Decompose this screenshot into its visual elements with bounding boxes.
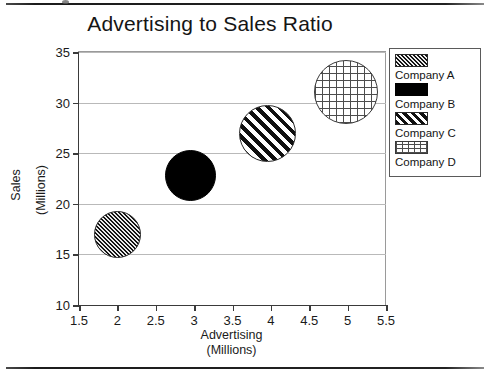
x-axis-tick-label: 1.5 — [70, 313, 88, 328]
legend-swatch-icon — [395, 54, 428, 67]
y-axis-label-line1: Sales — [9, 169, 23, 200]
x-axis-tick-mark — [156, 305, 158, 311]
x-axis-tick-mark — [79, 305, 81, 311]
x-axis-tick-mark — [348, 305, 350, 311]
y-axis-tick-mark — [73, 52, 79, 54]
x-axis-tick-mark — [233, 305, 235, 311]
legend-label: Company A — [395, 68, 476, 82]
bubble-company-b[interactable] — [165, 150, 216, 201]
y-axis-tick-label: 10 — [56, 298, 70, 313]
legend-swatch-icon — [395, 112, 428, 125]
x-axis-tick-label: 5 — [344, 313, 351, 328]
legend-label: Company C — [395, 126, 476, 140]
x-axis-label-line1: Advertising — [78, 328, 385, 343]
scanned-page: Advertising to Sales Ratio 1015202530351… — [0, 0, 488, 380]
bubble-company-a[interactable] — [94, 211, 141, 258]
y-axis-label-line2: (Millions) — [34, 165, 48, 215]
x-axis-tick-label: 3.5 — [223, 313, 241, 328]
x-axis-label-line2: (Millions) — [78, 343, 385, 358]
y-axis-tick-label: 35 — [56, 45, 70, 60]
x-axis-tick-label: 5.5 — [377, 313, 395, 328]
y-axis-label: Sales (Millions) — [8, 150, 58, 240]
x-axis-tick-mark — [117, 305, 119, 311]
x-axis-tick-label: 2.5 — [147, 313, 165, 328]
y-axis-tick-label: 15 — [56, 247, 70, 262]
x-axis-tick-label: 4.5 — [300, 313, 318, 328]
gridline-horizontal — [79, 153, 386, 154]
x-axis-tick-mark — [309, 305, 311, 311]
bubble-company-d[interactable] — [314, 60, 378, 124]
page-top-rule — [6, 3, 484, 5]
plot-area: 1015202530351.522.533.544.555.5 — [78, 52, 386, 306]
chart-legend: Company ACompany BCompany CCompany D — [389, 48, 481, 177]
legend-item[interactable]: Company D — [395, 141, 476, 169]
y-axis-tick-label: 30 — [56, 95, 70, 110]
bubble-company-c[interactable] — [239, 105, 296, 162]
x-axis-tick-label: 4 — [267, 313, 274, 328]
x-axis-tick-label: 3 — [191, 313, 198, 328]
x-axis-tick-mark — [386, 305, 388, 311]
legend-label: Company B — [395, 97, 476, 111]
y-axis-tick-mark — [73, 254, 79, 256]
y-axis-tick-mark — [73, 204, 79, 206]
chart-title: Advertising to Sales Ratio — [0, 12, 420, 36]
scan-artifact-speck — [62, 0, 69, 4]
gridline-horizontal — [79, 52, 386, 53]
legend-swatch-icon — [395, 83, 428, 96]
legend-item[interactable]: Company A — [395, 54, 476, 82]
x-axis-label: Advertising (Millions) — [78, 328, 385, 358]
legend-label: Company D — [395, 155, 476, 169]
y-axis-tick-mark — [73, 103, 79, 105]
x-axis-tick-mark — [194, 305, 196, 311]
legend-swatch-icon — [395, 141, 428, 154]
gridline-horizontal — [79, 204, 386, 205]
x-axis-tick-label: 2 — [114, 313, 121, 328]
y-axis-tick-mark — [73, 153, 79, 155]
legend-item[interactable]: Company C — [395, 112, 476, 140]
x-axis-tick-mark — [271, 305, 273, 311]
legend-item[interactable]: Company B — [395, 83, 476, 111]
page-bottom-rule — [6, 367, 484, 369]
